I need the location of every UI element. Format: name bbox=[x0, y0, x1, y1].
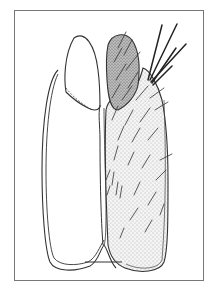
long-bristles bbox=[148, 24, 186, 85]
figure-illustration bbox=[0, 0, 220, 292]
inner-clear-lobe bbox=[65, 36, 100, 110]
figure-caption bbox=[14, 286, 206, 292]
